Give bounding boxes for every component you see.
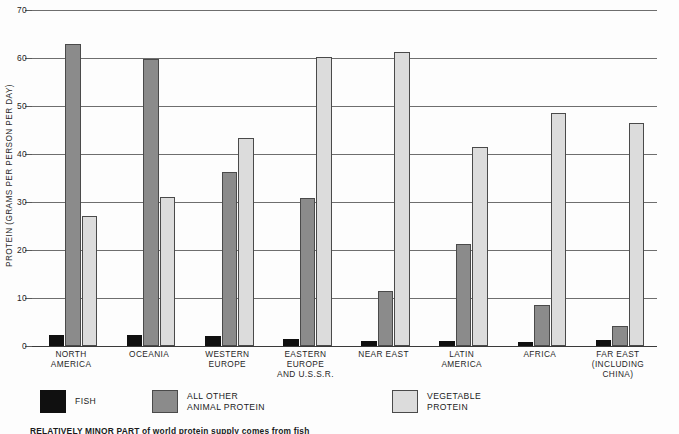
bar-group: [283, 10, 332, 346]
bar: [629, 123, 645, 346]
bar: [222, 172, 238, 346]
x-axis-label-line: WESTERN: [188, 349, 266, 359]
legend-item: ALL OTHER ANIMAL PROTEIN: [152, 390, 265, 413]
bar: [49, 335, 65, 346]
x-axis-label-line: EUROPE: [266, 359, 344, 369]
x-axis-label-line: LATIN: [423, 349, 501, 359]
bar: [518, 342, 534, 346]
x-axis-label-line: (INCLUDING: [579, 359, 657, 369]
chart-page: PROTEIN (GRAMS PER PERSON PER DAY) 01020…: [0, 0, 679, 434]
bar: [596, 340, 612, 346]
bar: [456, 244, 472, 346]
x-axis-label: FAR EAST(INCLUDINGCHINA): [579, 349, 657, 380]
legend-label: VEGETABLE PROTEIN: [427, 391, 481, 412]
bar: [143, 59, 159, 346]
x-axis-label-line: AMERICA: [32, 359, 110, 369]
legend-label: FISH: [75, 396, 96, 406]
bar: [612, 326, 628, 346]
bar: [127, 335, 143, 346]
bar-group: [127, 10, 176, 346]
bar: [534, 305, 550, 346]
x-axis-label-line: EASTERN: [266, 349, 344, 359]
x-axis-label-line: CHINA): [579, 369, 657, 379]
x-axis-label-line: NEAR EAST: [345, 349, 423, 359]
category-labels: NORTHAMERICAOCEANIAWESTERNEUROPEEASTERNE…: [32, 349, 657, 389]
bar-group: [518, 10, 567, 346]
bar: [160, 197, 176, 346]
y-tick-label-60: 60: [17, 53, 27, 63]
bar-group: [439, 10, 488, 346]
gridline-0: 0: [32, 346, 657, 347]
x-axis-label: NEAR EAST: [345, 349, 423, 359]
y-tick-label-20: 20: [17, 245, 27, 255]
x-axis-label: NORTHAMERICA: [32, 349, 110, 369]
x-axis-label-line: EUROPE: [188, 359, 266, 369]
bar: [378, 291, 394, 346]
x-axis-label-line: OCEANIA: [110, 349, 188, 359]
y-axis-title-text: PROTEIN (GRAMS PER PERSON PER DAY): [5, 83, 14, 266]
y-tick-label-0: 0: [22, 341, 27, 351]
bar: [65, 44, 81, 346]
y-tick-label-10: 10: [17, 293, 27, 303]
y-tick-label-40: 40: [17, 149, 27, 159]
x-axis-label-line: AFRICA: [501, 349, 579, 359]
figure-caption: RELATIVELY MINOR PART of world protein s…: [30, 426, 650, 434]
x-axis-label: WESTERNEUROPE: [188, 349, 266, 369]
legend-item: VEGETABLE PROTEIN: [392, 390, 481, 413]
x-axis-label-line: AMERICA: [423, 359, 501, 369]
legend-item: FISH: [40, 390, 96, 413]
legend-label: ALL OTHER ANIMAL PROTEIN: [187, 391, 265, 412]
x-axis-label: EASTERNEUROPEAND U.S.S.R.: [266, 349, 344, 380]
legend-swatch-fish: [40, 390, 66, 413]
x-axis-label: LATINAMERICA: [423, 349, 501, 369]
x-axis-label-line: NORTH: [32, 349, 110, 359]
bar: [394, 52, 410, 346]
bar: [283, 339, 299, 346]
x-axis-label: AFRICA: [501, 349, 579, 359]
bar-group: [596, 10, 645, 346]
y-axis-title: PROTEIN (GRAMS PER PERSON PER DAY): [0, 0, 18, 350]
bar: [238, 138, 254, 346]
legend-swatch-animal: [152, 390, 178, 413]
bar: [300, 198, 316, 346]
y-tick-label-50: 50: [17, 101, 27, 111]
y-tick-label-30: 30: [17, 197, 27, 207]
bar-group: [205, 10, 254, 346]
bar: [361, 341, 377, 346]
legend-swatch-vegetable: [392, 390, 418, 413]
chart-legend: FISHALL OTHER ANIMAL PROTEINVEGETABLE PR…: [32, 390, 652, 418]
bar: [82, 216, 98, 346]
x-axis-label-line: AND U.S.S.R.: [266, 369, 344, 379]
bars-layer: [32, 10, 657, 346]
y-tick-label-70: 70: [17, 5, 27, 15]
bar: [439, 341, 455, 346]
bar-group: [49, 10, 98, 346]
bar: [551, 113, 567, 346]
x-axis-label: OCEANIA: [110, 349, 188, 359]
bar: [316, 57, 332, 346]
bar: [472, 147, 488, 346]
bar: [205, 336, 221, 346]
bar-group: [361, 10, 410, 346]
x-axis-label-line: FAR EAST: [579, 349, 657, 359]
